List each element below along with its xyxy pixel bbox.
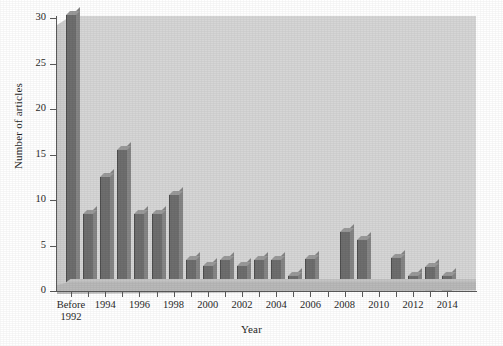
x-axis-tick (345, 292, 346, 297)
bar (169, 195, 179, 291)
x-axis-tick-label: 2008 (334, 299, 355, 311)
x-axis-tick-label: 1994 (95, 299, 116, 311)
x-axis-tick-label: 1998 (163, 299, 184, 311)
x-axis-tick-label: 2012 (403, 299, 424, 311)
x-axis-tick (276, 292, 277, 297)
x-axis-tick (157, 292, 158, 297)
bar-side-face (144, 206, 148, 287)
x-axis-tick-label: 2002 (232, 299, 253, 311)
x-axis-tick-label: 1996 (129, 299, 150, 311)
bar-front-face (66, 15, 76, 291)
bar-side-face (367, 232, 371, 287)
x-axis-tick (379, 292, 380, 297)
x-axis-tick (328, 292, 329, 297)
x-axis-tick (310, 292, 311, 297)
x-axis-tick-label: 2010 (368, 299, 389, 311)
x-axis-tick (174, 292, 175, 297)
x-axis-tick (430, 292, 431, 297)
plot-area (57, 16, 476, 291)
bar-side-face (179, 187, 183, 287)
y-axis-title: Number of articles (12, 56, 24, 196)
y-axis-tick (50, 246, 56, 247)
x-axis-tick (413, 292, 414, 297)
bar-front-face (117, 150, 127, 291)
y-axis-tick-label: 30 (0, 12, 46, 23)
x-axis-tick-label: 2004 (266, 299, 287, 311)
x-axis-tick (362, 292, 363, 297)
bar (66, 15, 76, 291)
y-axis-ticks: 051015202530 (0, 0, 57, 346)
y-axis-tick (50, 64, 56, 65)
bar (100, 177, 110, 291)
x-axis-tick (447, 292, 448, 297)
bar-side-face (162, 206, 166, 287)
x-axis-tick (208, 292, 209, 297)
bar-front-face (100, 177, 110, 291)
x-axis-tick (122, 292, 123, 297)
x-axis-tick (259, 292, 260, 297)
x-axis-tick-label: 2014 (437, 299, 458, 311)
x-axis-tick (225, 292, 226, 297)
bar-front-face (169, 195, 179, 291)
x-axis-tick (88, 292, 89, 297)
bar-side-face (127, 142, 131, 287)
x-axis-tick (71, 292, 72, 297)
y-axis-tick (50, 291, 56, 292)
y-axis-tick-label: 5 (0, 240, 46, 251)
y-axis-tick-label: 0 (0, 285, 46, 296)
x-axis-tick (396, 292, 397, 297)
x-axis-tick-label: Before 1992 (57, 299, 86, 323)
y-axis-tick (50, 18, 56, 19)
x-axis-tick (105, 292, 106, 297)
x-axis-tick-label: 2000 (197, 299, 218, 311)
x-axis-tick (191, 292, 192, 297)
bar-side-face (110, 169, 114, 287)
y-axis-tick (50, 155, 56, 156)
x-axis-tick-label: 2006 (300, 299, 321, 311)
y-axis-tick (50, 109, 56, 110)
bar-side-face (93, 206, 97, 287)
x-axis-tick (242, 292, 243, 297)
bar-side-face (76, 7, 80, 287)
x-axis-tick (293, 292, 294, 297)
x-axis-tick (139, 292, 140, 297)
x-axis-title: Year (0, 323, 503, 335)
bar-side-face (350, 224, 354, 287)
chart-screenshot: 051015202530 Before 19921994199619982000… (0, 0, 503, 346)
y-axis-tick (50, 200, 56, 201)
bar (117, 150, 127, 291)
